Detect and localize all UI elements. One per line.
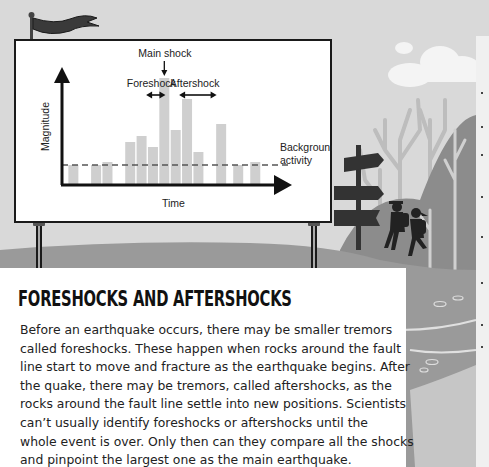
billboard-leg-right (311, 222, 317, 270)
billboard-chart: Magnitude Time Main shock Foreshock Afte… (14, 39, 332, 223)
background-activity-label-line1: Background (280, 141, 332, 153)
body-line: the quake, there may be tremors, called … (20, 377, 420, 396)
body-line: rocks around the fault line settle into … (20, 395, 420, 414)
text-fragment (481, 324, 483, 326)
bar-6 (148, 147, 158, 185)
background-activity-label-line2: activity (280, 154, 313, 166)
article-title: FORESHOCKS AND AFTERSHOCKS (18, 287, 292, 311)
body-line: Before an earthquake occurs, there may b… (20, 321, 420, 340)
bar-12 (233, 165, 243, 185)
bar-1 (68, 165, 78, 185)
body-line: called foreshocks. These happen when roc… (20, 340, 420, 359)
arrowhead (146, 92, 152, 99)
text-fragment (481, 126, 483, 128)
arrowhead (179, 92, 185, 99)
aftershock-double-arrow-icon (179, 92, 217, 99)
annotation-aftershock: Aftershock (170, 77, 220, 89)
text-fragment (481, 282, 483, 284)
illustration-scene: Magnitude Time Main shock Foreshock Afte… (0, 0, 489, 467)
body-line: line start to move and fracture as the e… (20, 358, 420, 377)
body-line: and pinpoint the largest one as the main… (20, 451, 420, 467)
x-axis-arrowhead (274, 175, 292, 195)
bar-2 (91, 165, 101, 185)
bar-10 (193, 152, 203, 185)
text-fragment (481, 346, 483, 348)
annotation-main-shock: Main shock (138, 47, 192, 59)
billboard-leg-left (36, 222, 42, 270)
main-shock-arrowhead (161, 70, 167, 76)
bar-8 (171, 130, 181, 185)
cloud-icon (388, 42, 480, 87)
y-axis-arrowhead (54, 67, 70, 83)
text-fragment (481, 92, 483, 94)
body-line: whole event is over. Only then can they … (20, 433, 420, 452)
adjacent-page-edge (476, 36, 489, 467)
text-fragment (481, 236, 483, 238)
article-body: Before an earthquake occurs, there may b… (20, 321, 420, 467)
bar-9 (182, 99, 192, 185)
arrowhead (211, 92, 217, 99)
bar-4 (125, 142, 135, 185)
bar-11 (216, 124, 226, 185)
bars-group (68, 78, 260, 185)
body-line: can’t usually identify foreshocks or aft… (20, 414, 420, 433)
x-axis-label: Time (162, 197, 185, 209)
y-axis-label: Magnitude (39, 102, 51, 151)
bar-5 (137, 136, 147, 185)
magnitude-time-chart: Magnitude Time Main shock Foreshock Afte… (16, 41, 332, 223)
text-fragment (481, 154, 483, 156)
text-fragment (481, 196, 483, 198)
